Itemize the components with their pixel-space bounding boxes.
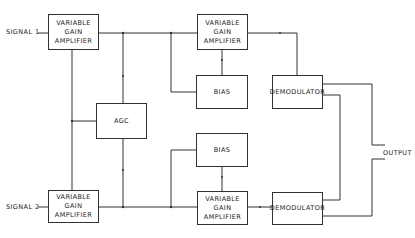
block-label: BIAS <box>214 146 231 155</box>
variable-gain-amplifier-1-output: VARIABLE GAIN AMPLIFIER <box>197 14 248 50</box>
demodulator-1: DEMODULATOR <box>272 75 323 109</box>
block-label: DEMODULATOR <box>270 88 325 97</box>
block-label-line1: VARIABLE <box>205 195 240 204</box>
block-label-line1: VARIABLE <box>205 19 240 28</box>
block-label-line2: GAIN AMPLIFIER <box>198 204 247 222</box>
demodulator-2: DEMODULATOR <box>272 192 323 225</box>
bias-block-2: BIAS <box>196 133 248 167</box>
variable-gain-amplifier-2-input: VARIABLE GAIN AMPLIFIER <box>48 190 99 223</box>
signal-2-label: SIGNAL 2 <box>6 203 39 211</box>
signal-1-label: SIGNAL 1 <box>6 28 39 36</box>
block-label-line2: GAIN AMPLIFIER <box>198 28 247 46</box>
block-label: BIAS <box>214 88 231 97</box>
block-label-line1: VARIABLE <box>56 193 91 202</box>
block-label: AGC <box>114 117 129 126</box>
block-label-line2: GAIN AMPLIFIER <box>49 28 98 46</box>
block-label: DEMODULATOR <box>270 204 325 213</box>
bias-block-1: BIAS <box>196 75 248 109</box>
block-label-line1: VARIABLE <box>56 19 91 28</box>
output-label: OUTPUT <box>383 149 412 157</box>
variable-gain-amplifier-2-output: VARIABLE GAIN AMPLIFIER <box>197 191 248 225</box>
agc-block: AGC <box>96 103 147 139</box>
variable-gain-amplifier-1-input: VARIABLE GAIN AMPLIFIER <box>48 14 99 50</box>
block-label-line2: GAIN AMPLIFIER <box>49 202 98 220</box>
